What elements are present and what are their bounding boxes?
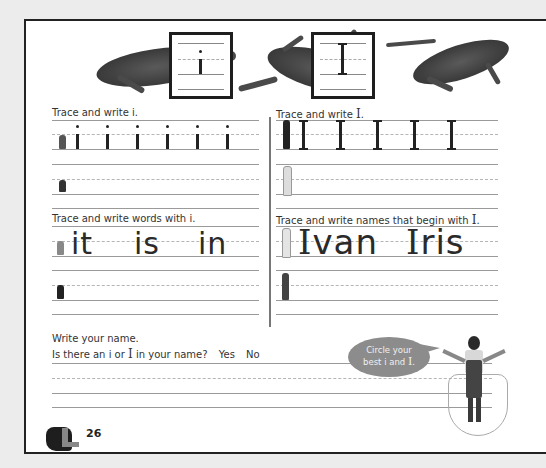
- model-name-iris: Iris: [406, 225, 465, 259]
- model-word: in: [198, 229, 227, 259]
- child-figure-icon: [59, 135, 66, 149]
- child-figure-icon: [283, 120, 290, 149]
- bubble-text-line2: best i and I.: [348, 356, 430, 368]
- bubble-text: and: [387, 357, 408, 367]
- model-word: it: [71, 229, 93, 259]
- child-figure-icon: [57, 285, 64, 299]
- write-name-instruction: Write your name.: [52, 333, 139, 344]
- lowercase-letter-model-box: [169, 32, 233, 99]
- bubble-text: .: [412, 357, 415, 367]
- title-suffix: .: [477, 215, 480, 226]
- model-name-ivan: Ivan: [298, 225, 378, 259]
- name-question: Is there an i or I in your name? Yes No: [52, 347, 260, 361]
- child-figure-icon: [59, 180, 66, 192]
- title-text: Trace and write: [52, 107, 132, 118]
- page-number: 26: [86, 427, 101, 440]
- bubble-text: best: [363, 357, 384, 367]
- title-suffix: .: [135, 107, 138, 118]
- jump-rope-girl-illustration: [436, 334, 512, 442]
- question-text: in your name?: [133, 349, 208, 360]
- yes-option[interactable]: Yes: [219, 349, 235, 360]
- worksheet-page: Trace and write i. Trace and write I.: [24, 19, 546, 454]
- lizard-banner: [66, 31, 506, 111]
- column-divider: [269, 117, 271, 327]
- title-text: Trace and write: [276, 109, 356, 120]
- question-text: or: [111, 349, 128, 360]
- section-title-words-lowercase: Trace and write words with i.: [52, 213, 195, 224]
- title-suffix: .: [192, 213, 195, 224]
- child-figure-icon: [282, 273, 289, 300]
- section-title-trace-uppercase: Trace and write I.: [276, 107, 364, 121]
- hand-sign-L-icon: [46, 421, 80, 451]
- child-figure-icon: [282, 228, 291, 258]
- bubble-text: Circle your: [348, 344, 430, 356]
- model-word: is: [134, 229, 160, 259]
- child-figure-icon: [57, 241, 64, 255]
- uppercase-letter-model-box: [311, 32, 375, 99]
- speech-bubble: Circle your best i and I.: [348, 337, 430, 377]
- section-title-trace-lowercase: Trace and write i.: [52, 107, 138, 118]
- child-figure-icon: [283, 166, 292, 196]
- question-text: Is there an: [52, 349, 109, 360]
- no-option[interactable]: No: [246, 349, 260, 360]
- title-text: Trace and write words with: [52, 213, 189, 224]
- title-suffix: .: [361, 109, 364, 120]
